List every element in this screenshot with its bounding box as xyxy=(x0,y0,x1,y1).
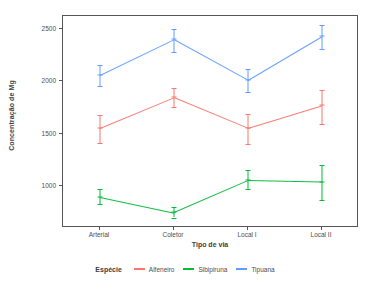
y-axis-title-text: Concentração de Mg xyxy=(8,80,15,151)
legend-key-icon xyxy=(183,265,194,274)
x-tick-mark xyxy=(321,227,322,230)
error-bar xyxy=(174,29,175,52)
error-bar-cap xyxy=(320,49,325,50)
error-bar-cap xyxy=(246,69,251,70)
x-tick-mark xyxy=(173,227,174,230)
error-bar xyxy=(248,69,249,92)
y-tick-label: 2000 xyxy=(16,77,56,84)
error-bar-cap xyxy=(98,86,103,87)
x-tick-label: Arterial xyxy=(64,231,134,238)
chart-figure: Concentração de Mg 2500200015001000 Arte… xyxy=(0,0,370,289)
error-bar-cap xyxy=(172,52,177,53)
plot-panel xyxy=(62,15,358,227)
series-line-segment xyxy=(100,39,174,75)
legend-item-label: Alfeneiro xyxy=(149,266,175,273)
legend-item-label: Sibipiruna xyxy=(198,266,227,273)
error-bar xyxy=(100,65,101,86)
legend-key-icon xyxy=(236,265,247,274)
error-bar-cap xyxy=(246,92,251,93)
y-axis-title: Concentração de Mg xyxy=(0,0,22,230)
series-group xyxy=(63,16,357,226)
legend-key-icon xyxy=(134,265,145,274)
chart-legend: Espécie AlfeneiroSibipirunaTipuana xyxy=(0,258,370,280)
data-point xyxy=(172,39,177,40)
x-tick-mark xyxy=(247,227,248,230)
y-tick-mark xyxy=(59,133,62,134)
y-tick-mark xyxy=(59,28,62,29)
y-tick-label: 1500 xyxy=(16,129,56,136)
data-point xyxy=(98,74,103,75)
y-tick-mark xyxy=(59,185,62,186)
x-tick-label: Coletor xyxy=(138,231,208,238)
legend-item-sibipiruna[interactable]: Sibipiruna xyxy=(183,265,227,274)
x-tick-label: Local I xyxy=(212,231,282,238)
y-tick-label: 2500 xyxy=(16,24,56,31)
x-axis-title: Tipo de via xyxy=(60,241,360,248)
plot-area xyxy=(63,16,357,226)
y-tick-label: 1000 xyxy=(16,182,56,189)
y-tick-mark xyxy=(59,80,62,81)
legend-item-alfeneiro[interactable]: Alfeneiro xyxy=(134,265,175,274)
error-bar-cap xyxy=(172,29,177,30)
series-line-segment xyxy=(248,36,322,81)
legend-item-label: Tipuana xyxy=(251,266,274,273)
error-bar-cap xyxy=(98,65,103,66)
series-line-segment xyxy=(174,39,248,80)
legend-item-tipuana[interactable]: Tipuana xyxy=(236,265,274,274)
error-bar xyxy=(322,25,323,49)
error-bar-cap xyxy=(320,25,325,26)
legend-title: Espécie xyxy=(95,266,121,273)
x-tick-mark xyxy=(99,227,100,230)
x-tick-label: Local II xyxy=(286,231,356,238)
data-point xyxy=(320,35,325,36)
data-point xyxy=(246,79,251,80)
